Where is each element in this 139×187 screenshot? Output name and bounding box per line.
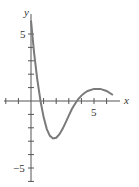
x-tick-label-5: 5 bbox=[91, 106, 97, 118]
function-curve bbox=[31, 21, 113, 139]
y-tick-label-5: 5 bbox=[20, 28, 26, 40]
function-graph: y x 5 5 −5 bbox=[0, 0, 139, 187]
y-axis-label: y bbox=[23, 6, 29, 18]
y-tick-label-neg5: −5 bbox=[13, 162, 25, 174]
x-axis-label: x bbox=[123, 94, 129, 106]
